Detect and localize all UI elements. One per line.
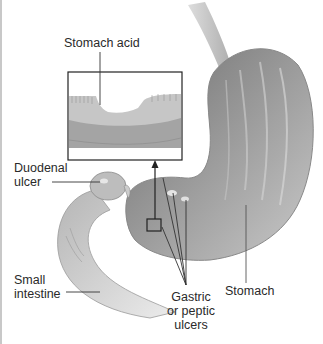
stomach-label: Stomach: [225, 284, 274, 298]
esophagus: [188, 2, 232, 70]
small-intestine-label: Small intestine: [14, 273, 61, 301]
duodenal-ulcer-label: Duodenal ulcer: [14, 161, 68, 189]
inset-box: [68, 72, 182, 160]
gastric-ulcers-label: Gastric or peptic ulcers: [163, 290, 219, 332]
duodenal-bulb: [90, 172, 126, 200]
stomach-acid-label: Stomach acid: [64, 36, 140, 50]
